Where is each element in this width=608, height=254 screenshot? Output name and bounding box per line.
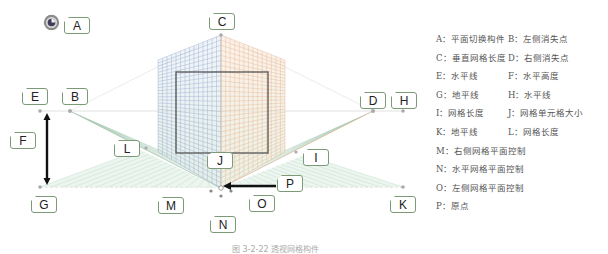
perspective-grid-graphic — [0, 0, 430, 250]
legend-item: C：垂直网格长度 — [436, 51, 506, 63]
callout-i: I — [303, 149, 329, 166]
legend-row: E：水平线F：水平高度 — [436, 69, 608, 88]
legend-item: K：地平线 — [436, 125, 478, 137]
legend-row: N：水平网格平面控制 — [436, 162, 608, 181]
legend-row: M：右侧网格平面控制 — [436, 144, 608, 163]
callout-l: L — [114, 140, 140, 157]
figure-caption: 图 3-2-22 透视网格构件 — [232, 243, 319, 254]
legend-row: P：原点 — [436, 199, 608, 218]
callout-c: C — [209, 13, 235, 30]
perspective-grid-diagram: ABCDEFGHIJKLMNOP — [0, 0, 430, 250]
callout-n: N — [210, 216, 236, 233]
legend-item: D：右侧消失点 — [508, 51, 569, 63]
legend-item: P：原点 — [436, 199, 469, 211]
callout-f: F — [10, 132, 36, 149]
legend-item: M：右侧网格平面控制 — [436, 144, 526, 156]
legend-item: N：水平网格平面控制 — [436, 162, 524, 174]
callout-j: J — [207, 152, 233, 169]
legend-item: H：水平线 — [508, 88, 551, 100]
legend-row: K：地平线L：网格长度 — [436, 125, 608, 144]
callout-d: D — [360, 92, 386, 109]
legend-item: L：网格长度 — [508, 125, 559, 137]
legend-item: A：平面切换构件 — [436, 32, 505, 44]
legend-item: O：左侧网格平面控制 — [436, 181, 524, 193]
legend-row: A：平面切换构件B：左侧消失点 — [436, 32, 608, 51]
callout-b: B — [62, 88, 88, 105]
callout-e: E — [22, 88, 48, 105]
callout-m: M — [158, 197, 184, 214]
legend-item: B：左侧消失点 — [508, 32, 568, 44]
legend-item: I：网格长度 — [436, 106, 484, 118]
legend: A：平面切换构件B：左侧消失点C：垂直网格长度D：右侧消失点E：水平线F：水平高… — [436, 32, 608, 218]
legend-item: F：水平高度 — [508, 69, 559, 81]
legend-item: J：网格单元格大小 — [508, 106, 583, 118]
legend-item: G：地平线 — [436, 88, 479, 100]
legend-row: C：垂直网格长度D：右侧消失点 — [436, 51, 608, 70]
origin-point — [219, 186, 223, 190]
callout-h: H — [391, 92, 417, 109]
plane-switcher-icon[interactable] — [43, 14, 60, 31]
legend-row: I：网格长度J：网格单元格大小 — [436, 106, 608, 125]
legend-item: E：水平线 — [436, 69, 478, 81]
callout-o: O — [249, 195, 275, 212]
legend-row: O：左侧网格平面控制 — [436, 181, 608, 200]
legend-row: G：地平线H：水平线 — [436, 88, 608, 107]
callout-k: K — [390, 196, 416, 213]
callout-p: P — [277, 175, 303, 192]
callout-g: G — [31, 196, 57, 213]
callout-a: A — [64, 17, 90, 34]
